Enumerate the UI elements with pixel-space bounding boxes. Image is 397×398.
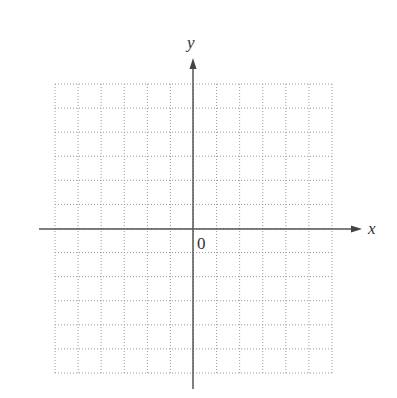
y-axis-arrow-icon [190,58,197,69]
y-axis-label: y [185,33,195,52]
x-axis [39,226,362,233]
coordinate-plane: y x 0 [0,0,397,398]
origin-label: 0 [197,234,206,253]
x-axis-label: x [367,219,376,238]
x-axis-arrow-icon [351,226,362,233]
